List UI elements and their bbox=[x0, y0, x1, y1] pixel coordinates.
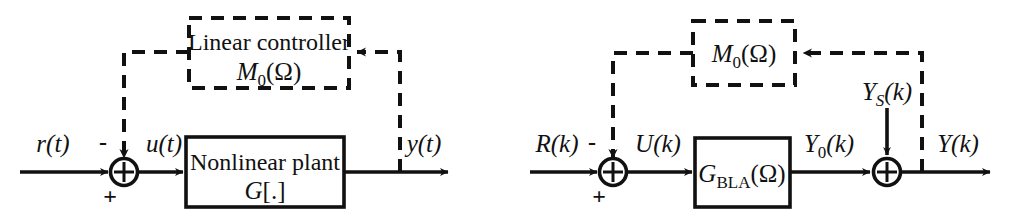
figure-canvas: r(t) - + u(t) Nonlinear plant G[.] Linea… bbox=[0, 0, 1034, 221]
y0-label: Y0(k) bbox=[804, 130, 854, 162]
plant-bracket-symbol: [.] bbox=[263, 177, 286, 204]
ys-arg: (k) bbox=[884, 78, 912, 106]
bla-controller-omega-arg: (Ω) bbox=[741, 40, 776, 68]
right-minus-sign: - bbox=[588, 129, 596, 155]
nonlinear-plant-label: Nonlinear plant bbox=[190, 149, 340, 175]
controller-omega-arg: (Ω) bbox=[266, 58, 301, 86]
bla-controller-expression: M0(Ω) bbox=[711, 40, 777, 72]
y0-arg: (k) bbox=[826, 130, 854, 158]
plant-g-symbol: G bbox=[245, 177, 263, 204]
nonlinear-plant-expression: G[.] bbox=[245, 177, 286, 204]
linear-controller-expression: M0(Ω) bbox=[236, 58, 302, 90]
controller-m-symbol: M bbox=[236, 58, 259, 85]
right-mid-label: U(k) bbox=[635, 130, 681, 158]
bla-controller-m-symbol: M bbox=[711, 40, 734, 67]
linear-controller-label: Linear controller bbox=[188, 29, 350, 55]
right-output-label: Y(k) bbox=[937, 130, 979, 158]
ys-noise-label: YS(k) bbox=[862, 78, 912, 110]
gbla-omega-arg: (Ω) bbox=[750, 160, 785, 188]
right-plus-sign: + bbox=[592, 183, 606, 209]
left-feedback-dashed-path bbox=[357, 52, 400, 172]
left-input-label: r(t) bbox=[36, 130, 69, 158]
left-mid-label: u(t) bbox=[146, 130, 182, 158]
controller-m-subscript: 0 bbox=[258, 71, 267, 90]
y0-subscript: 0 bbox=[818, 143, 827, 162]
left-minus-sign: - bbox=[99, 129, 107, 155]
right-input-label: R(k) bbox=[534, 130, 578, 158]
gbla-g-symbol: G bbox=[698, 160, 716, 187]
left-plus-sign: + bbox=[103, 183, 117, 209]
gbla-subscript: BLA bbox=[716, 173, 751, 192]
left-output-label: y(t) bbox=[404, 130, 442, 158]
block-diagram-svg: r(t) - + u(t) Nonlinear plant G[.] Linea… bbox=[0, 0, 1034, 221]
bla-controller-subscript: 0 bbox=[733, 53, 742, 72]
